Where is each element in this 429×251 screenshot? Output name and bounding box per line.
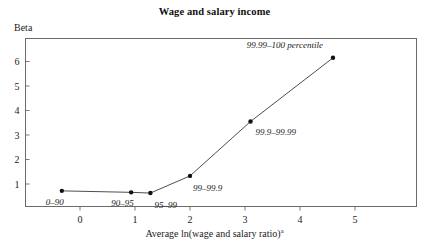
y-tick-label: 5 [15, 81, 20, 92]
chart-figure: Wage and salary income Beta 012345 12345… [0, 0, 429, 251]
y-axis-ticks: 123456 [15, 56, 30, 190]
data-point-marker [188, 174, 192, 178]
x-axis-ticks: 012345 [78, 207, 358, 225]
data-point-marker [148, 191, 152, 195]
x-axis-label-superscript: a [281, 227, 284, 234]
x-axis-label: Average ln(wage and salary ratio)a [0, 228, 429, 239]
data-point-marker [129, 190, 133, 194]
x-tick-label: 1 [133, 214, 138, 225]
y-tick-label: 3 [15, 130, 20, 141]
plot-frame [26, 39, 417, 207]
x-tick-label: 4 [298, 214, 303, 225]
data-point-label: 90–95 [111, 198, 134, 208]
x-tick-label: 5 [353, 214, 358, 225]
data-point-marker [248, 119, 252, 123]
y-tick-label: 6 [15, 56, 20, 67]
plot-area: 012345 123456 0–9090–9595–9999–99.999.9–… [0, 0, 429, 251]
data-point-marker [331, 56, 335, 60]
data-point-label: 99.9–99.99 [256, 127, 297, 137]
data-point-label: 99–99.9 [193, 183, 223, 193]
data-markers [60, 56, 336, 196]
series-line [62, 58, 333, 193]
x-tick-label: 3 [243, 214, 248, 225]
y-tick-label: 4 [15, 105, 20, 116]
x-tick-label: 2 [188, 214, 193, 225]
x-tick-label: 0 [78, 214, 83, 225]
y-tick-label: 1 [15, 179, 20, 190]
y-tick-label: 2 [15, 154, 20, 165]
x-axis-label-text: Average ln(wage and salary ratio) [145, 228, 280, 239]
data-point-label: 95–99 [154, 200, 177, 210]
data-point-marker [60, 189, 64, 193]
data-point-label: 99.99–100 percentile [247, 40, 323, 50]
data-point-labels: 0–9090–9595–9999–99.999.9–99.9999.99–100… [46, 40, 323, 210]
data-point-label: 0–90 [46, 197, 65, 207]
